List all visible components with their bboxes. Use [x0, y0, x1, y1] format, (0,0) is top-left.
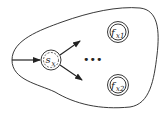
final-state-1-subscript: x1 — [116, 32, 124, 40]
transition-arrow-down — [60, 65, 82, 80]
start-state: s x — [41, 50, 61, 70]
final-state-1: f x1 — [108, 22, 129, 43]
start-state-label: s — [46, 54, 51, 65]
final-state-2-subscript: x2 — [116, 85, 125, 93]
final-state-2: f x2 — [108, 75, 129, 96]
ellipsis: ••• — [83, 53, 102, 66]
transition-arrow-up — [60, 41, 80, 55]
diagram-canvas: s x ••• f x1 f x2 — [0, 0, 164, 114]
automaton-diagram: s x ••• f x1 f x2 — [0, 0, 164, 114]
start-state-subscript: x — [52, 60, 56, 68]
